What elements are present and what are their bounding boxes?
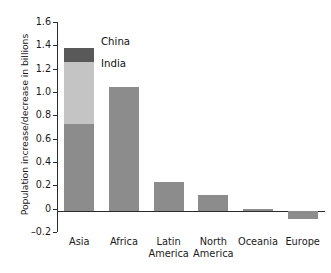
y-tick-label: –0.2 bbox=[31, 227, 51, 237]
bar-series bbox=[57, 22, 325, 232]
bar-segment[interactable] bbox=[64, 48, 94, 62]
y-tick-label: 1.2 bbox=[36, 64, 51, 74]
x-tick-label-line: Latin bbox=[146, 236, 191, 248]
population-change-bar-chart: Population increase/decrease in billions… bbox=[0, 0, 331, 273]
plot-area: 1.61.41.21.00.80.60.40.20–0.2 China Indi… bbox=[57, 22, 325, 232]
x-tick-label-line: America bbox=[146, 248, 191, 260]
x-tick-label: NorthAmerica bbox=[191, 236, 236, 259]
x-tick-label: Asia bbox=[57, 236, 102, 248]
y-tick-label: 0.6 bbox=[36, 134, 51, 144]
x-axis-tick-labels: AsiaAfricaLatinAmericaNorthAmericaOceani… bbox=[57, 236, 325, 273]
x-tick-label-line: Africa bbox=[102, 236, 147, 248]
x-tick-label: Africa bbox=[102, 236, 147, 248]
x-tick-label-line: Asia bbox=[57, 236, 102, 248]
bar-latin-america[interactable] bbox=[154, 182, 184, 211]
x-tick-label-line: America bbox=[191, 248, 236, 260]
x-tick-label: LatinAmerica bbox=[146, 236, 191, 259]
x-tick-label-line: Europe bbox=[280, 236, 325, 248]
x-tick-label-line: Oceania bbox=[236, 236, 281, 248]
bar-africa[interactable] bbox=[109, 87, 139, 211]
y-tick-label: 1.6 bbox=[36, 17, 51, 27]
bar-oceania[interactable] bbox=[243, 209, 273, 211]
y-tick-label: 0.8 bbox=[36, 111, 51, 121]
y-tick-label: 0.2 bbox=[36, 181, 51, 191]
y-tick-label: 0 bbox=[45, 204, 51, 214]
bar-segment[interactable] bbox=[64, 62, 94, 124]
x-tick-label: Oceania bbox=[236, 236, 281, 248]
bar-asia-stacked[interactable] bbox=[64, 48, 94, 211]
annotation-china: China bbox=[101, 37, 130, 47]
annotation-india: India bbox=[101, 59, 126, 69]
y-tick-label: 1.4 bbox=[36, 41, 51, 51]
bar-europe[interactable] bbox=[288, 211, 318, 219]
y-tick-label: 1.0 bbox=[36, 87, 51, 97]
bar-segment[interactable] bbox=[64, 124, 94, 211]
y-tick-mark bbox=[53, 232, 57, 233]
y-tick-label: 0.4 bbox=[36, 157, 51, 167]
x-tick-label-line: North bbox=[191, 236, 236, 248]
x-tick-label: Europe bbox=[280, 236, 325, 248]
bar-north-america[interactable] bbox=[198, 195, 228, 211]
y-axis-label: Population increase/decrease in billions bbox=[19, 25, 30, 225]
